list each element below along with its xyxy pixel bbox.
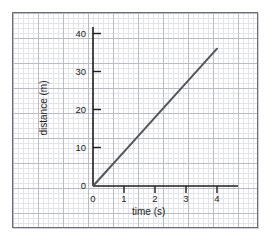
y-tick-label-30: 30 xyxy=(62,67,86,77)
y-tick-label-20: 20 xyxy=(62,105,86,115)
y-tick-label-10: 10 xyxy=(62,143,86,153)
chart-figure: 40 30 20 10 0 0 1 2 3 4 time (s) distanc… xyxy=(0,0,272,241)
x-tick-label-1: 1 xyxy=(114,194,134,204)
x-tick-label-0: 0 xyxy=(83,194,103,204)
x-tick-label-4: 4 xyxy=(207,194,227,204)
x-axis-title: time (s) xyxy=(132,207,165,217)
x-tick-label-3: 3 xyxy=(176,194,196,204)
x-tick-label-2: 2 xyxy=(145,194,165,204)
y-axis-title: distance (m) xyxy=(39,73,49,143)
y-tick-label-0: 0 xyxy=(62,181,86,191)
y-tick-label-40: 40 xyxy=(62,29,86,39)
